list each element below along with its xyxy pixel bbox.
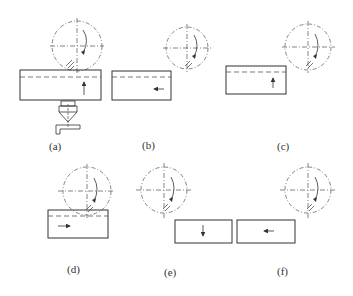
- label-a: (a): [49, 140, 61, 152]
- panel-a: [20, 18, 104, 134]
- panel-f: [237, 163, 335, 243]
- label-f: (f): [277, 265, 288, 277]
- workpiece: [237, 220, 295, 243]
- workpiece: [175, 220, 232, 243]
- rotation-arrow-icon: [171, 177, 174, 200]
- rotation-arrow-icon: [194, 35, 197, 57]
- workpiece: [226, 66, 286, 94]
- contact-hatch: [306, 61, 313, 68]
- panel-e: [136, 163, 232, 243]
- label-d: (d): [67, 263, 80, 275]
- label-c: (c): [277, 140, 289, 152]
- contact-hatch: [66, 60, 74, 70]
- rotation-arrow-icon: [94, 178, 97, 201]
- panel-d: [48, 164, 115, 238]
- rotation-arrow-icon: [83, 30, 87, 53]
- label-e: (e): [164, 266, 176, 278]
- tool-holder-icon: [56, 101, 80, 134]
- panel-b: [112, 24, 211, 100]
- workpiece: [112, 71, 171, 100]
- workpiece: [20, 70, 101, 100]
- panel-c: [226, 21, 335, 94]
- contact-hatch: [185, 61, 192, 68]
- rotation-arrow-icon: [315, 34, 318, 57]
- label-b: (b): [142, 139, 155, 151]
- rotation-arrow-icon: [315, 177, 318, 200]
- workpiece: [48, 210, 108, 238]
